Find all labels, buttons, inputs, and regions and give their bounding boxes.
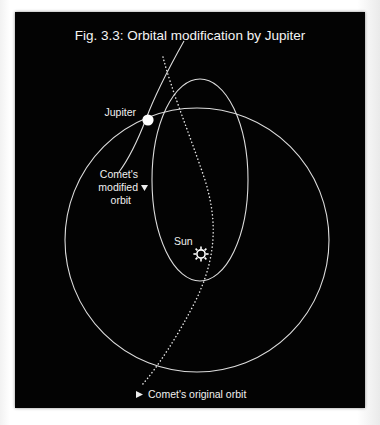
jupiter-orbit-circle [65,108,329,372]
comet-original-orbit-label: Comet's original orbit [148,388,246,400]
sun-label: Sun [174,235,193,247]
comet-modified-orbit-label-line2: modified [98,181,138,193]
comet-modified-orbit-label-line3: orbit [111,194,132,206]
comet-original-orbit-curve [142,57,213,385]
triangle-right-arrow-icon [136,391,143,398]
orbital-diagram: Fig. 3.3: Orbital modification by Jupite… [0,0,380,425]
figure-frame: Fig. 3.3: Orbital modification by Jupite… [0,0,380,425]
triangle-down-arrow-icon [141,185,148,191]
jupiter-label: Jupiter [104,106,136,118]
jupiter-planet-dot-icon [142,114,153,125]
sun-icon [193,246,208,261]
comet-modified-orbit-label-line1: Comet's [100,168,138,180]
figure-title: Fig. 3.3: Orbital modification by Jupite… [75,28,306,43]
